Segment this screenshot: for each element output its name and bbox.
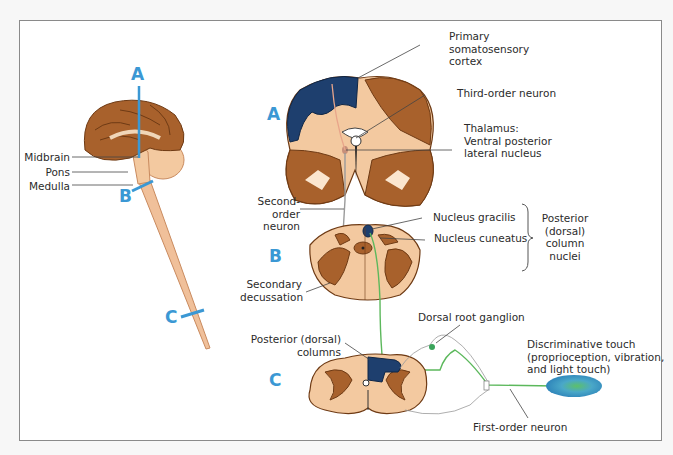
label-first-order-neuron: First-order neuron [473, 421, 567, 434]
label-nucleus-cuneatus: Nucleus cuneatus [434, 232, 527, 245]
label-nucleus-gracilis: Nucleus gracilis [433, 211, 516, 224]
label-midbrain: Midbrain [22, 151, 70, 164]
section-marker-b: B [269, 248, 282, 265]
section-marker-a-overview: A [131, 66, 144, 83]
label-medulla: Medulla [22, 180, 70, 193]
label-secondary-decussation: Secondary decussation [240, 278, 302, 303]
label-second-order-neuron: Second- order neuron [240, 195, 300, 233]
label-primary-somatosensory-cortex: Primary somatosensory cortex [449, 30, 529, 68]
label-third-order-neuron: Third-order neuron [457, 87, 556, 100]
label-pons: Pons [22, 166, 70, 179]
touch-receptor [546, 375, 602, 397]
label-posterior-dorsal-columns: Posterior (dorsal) columns [240, 333, 341, 358]
label-dorsal-root-ganglion: Dorsal root ganglion [418, 311, 525, 324]
sagittal-brain [72, 86, 210, 349]
section-marker-a: A [267, 106, 280, 123]
section-marker-b-overview: B [119, 188, 132, 205]
section-marker-c-overview: C [165, 309, 177, 326]
label-discriminative-touch: Discriminative touch (proprioception, vi… [527, 338, 664, 376]
label-thalamus-vpl: Thalamus: Ventral posterior lateral nucl… [464, 122, 552, 160]
coronal-brain-section [286, 45, 452, 206]
label-posterior-column-nuclei: Posterior (dorsal) column nuclei [535, 212, 595, 262]
section-marker-c: C [269, 372, 281, 389]
